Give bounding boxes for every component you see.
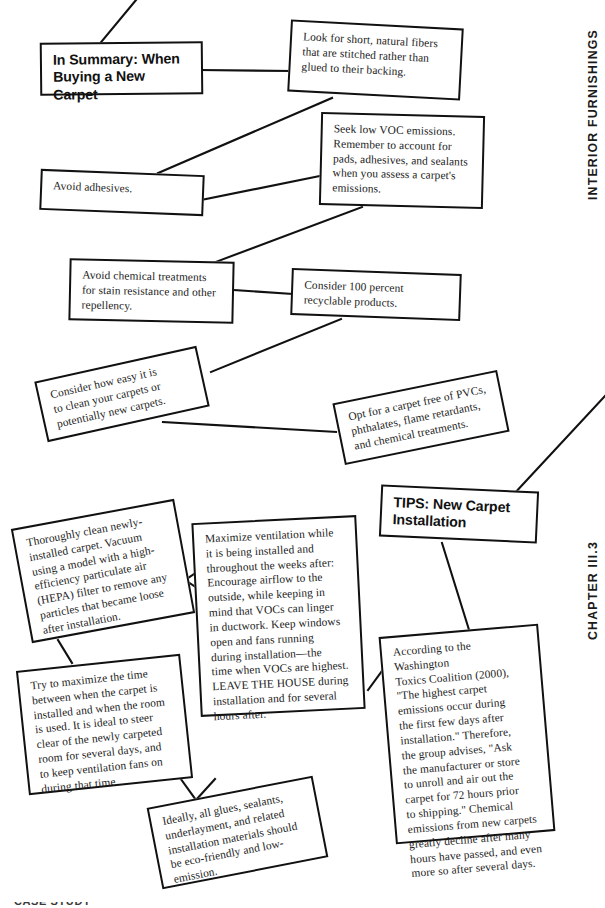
connector-into-summary-title	[97, 0, 136, 47]
running-head-interior-furnishings: INTERIOR FURNISHINGS	[586, 29, 600, 200]
connector-adhesives-to-voc	[201, 176, 320, 200]
node-recyclable-products[interactable]: Consider 100 percent recyclable products…	[290, 268, 462, 321]
node-low-voc-emissions-text: Seek low VOC emissions. Remember to acco…	[332, 121, 473, 199]
node-low-voc-emissions[interactable]: Seek low VOC emissions. Remember to acco…	[319, 112, 485, 209]
node-washington-toxics-coalition[interactable]: According to the Washington Toxics Coali…	[379, 624, 556, 845]
node-ease-of-cleaning[interactable]: Consider how easy it is to clean your ca…	[34, 346, 209, 442]
connector-voc-to-chemical	[213, 207, 362, 263]
node-short-natural-fibers-text: Look for short, natural fibers that are …	[301, 29, 451, 81]
node-avoid-adhesives[interactable]: Avoid adhesives.	[39, 169, 204, 216]
connector-chemical-to-recyclable	[234, 290, 292, 294]
node-summary-title-text: In Summary: When Buying a New Carpet	[53, 50, 192, 103]
node-maximize-ventilation[interactable]: Maximize ventilation while it is being i…	[191, 515, 365, 717]
node-maximize-ventilation-text: Maximize ventilation while it is being i…	[205, 525, 354, 724]
connector-summary-to-fibers	[200, 70, 291, 71]
node-free-of-pvcs-text: Opt for a carpet free of PVCs, phthalate…	[347, 381, 496, 453]
connector-into-tips-title	[513, 396, 605, 495]
node-maximize-time[interactable]: Try to maximize the time between when th…	[16, 654, 193, 796]
node-summary-title[interactable]: In Summary: When Buying a New Carpet	[40, 41, 204, 96]
node-avoid-chemical-treatments[interactable]: Avoid chemical treatments for stain resi…	[68, 258, 234, 323]
node-thoroughly-clean[interactable]: Thoroughly clean newly- installed carpet…	[11, 499, 195, 643]
node-recyclable-products-text: Consider 100 percent recyclable products…	[304, 277, 450, 312]
node-eco-friendly-materials[interactable]: Ideally, all glues, sealants, underlayme…	[147, 776, 329, 890]
connector-clean-to-time	[58, 640, 72, 663]
node-tips-title-text: TIPS: New Carpet Installation	[392, 494, 526, 535]
node-eco-friendly-materials-text: Ideally, all glues, sealants, underlayme…	[161, 787, 317, 887]
node-maximize-time-text: Try to maximize the time between when th…	[30, 664, 182, 797]
connector-tips-to-washington	[442, 543, 470, 633]
node-ease-of-cleaning-text: Consider how easy it is to clean your ca…	[49, 357, 196, 431]
node-short-natural-fibers[interactable]: Look for short, natural fibers that are …	[287, 20, 464, 101]
connector-recyclable-to-ease	[211, 319, 341, 372]
node-avoid-adhesives-text: Avoid adhesives.	[53, 178, 192, 198]
node-tips-title[interactable]: TIPS: New Carpet Installation	[379, 484, 539, 543]
node-avoid-chemical-treatments-text: Avoid chemical treatments for stain resi…	[82, 268, 223, 315]
connector-fibers-to-adhesives	[158, 98, 332, 173]
running-head-chapter: CHAPTER III.3	[586, 541, 600, 640]
node-free-of-pvcs[interactable]: Opt for a carpet free of PVCs, phthalate…	[332, 370, 509, 465]
footer-cutoff: CASE STUDY	[14, 902, 184, 908]
node-washington-toxics-coalition-text: According to the Washington Toxics Coali…	[392, 634, 546, 882]
footer-cutoff-text: CASE STUDY	[14, 902, 184, 907]
connector-ease-to-pvcs	[163, 422, 336, 432]
node-thoroughly-clean-text: Thoroughly clean newly- installed carpet…	[25, 510, 183, 638]
document-page: In Summary: When Buying a New Carpet Loo…	[0, 0, 605, 908]
